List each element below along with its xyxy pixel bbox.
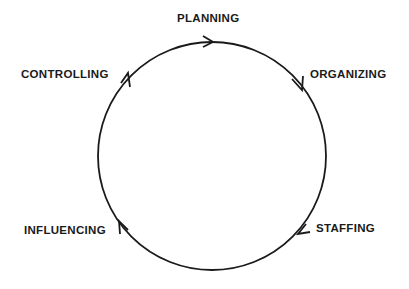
stage-label-controlling: CONTROLLING bbox=[21, 68, 109, 80]
stage-label-staffing: STAFFING bbox=[316, 222, 375, 234]
cycle-circle bbox=[98, 42, 326, 270]
stage-label-influencing: INFLUENCING bbox=[24, 224, 106, 236]
arrow-icon-organizing bbox=[292, 76, 303, 90]
stage-label-organizing: ORGANIZING bbox=[310, 68, 386, 80]
cycle-diagram bbox=[0, 0, 409, 289]
stage-label-planning: PLANNING bbox=[177, 12, 239, 24]
